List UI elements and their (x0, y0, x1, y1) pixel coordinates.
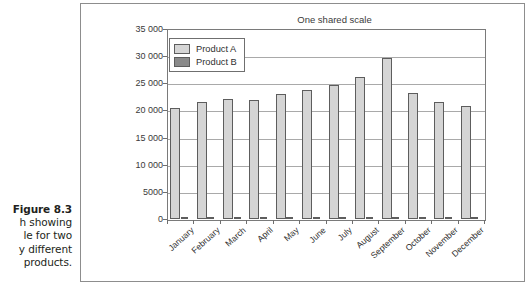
bar-group (405, 29, 431, 219)
x-tick-label-july: July (336, 225, 354, 243)
bar-product-a (302, 90, 312, 219)
bar-group (273, 29, 299, 219)
x-tick-label-june: June (307, 225, 328, 245)
bar-product-a (382, 58, 392, 219)
bar-product-b (234, 217, 241, 219)
legend-swatch-icon (174, 57, 190, 67)
y-tick-label: 0 (83, 214, 163, 224)
bar-product-b (392, 217, 399, 219)
bar-product-a (408, 93, 418, 219)
bar-product-b (419, 217, 426, 219)
y-tick-label: 5000 (83, 187, 163, 197)
bar-product-a (223, 99, 233, 219)
x-tick-label-march: March (224, 225, 248, 248)
bar-group (326, 29, 352, 219)
bar-product-a (197, 102, 207, 219)
caption-line-1: h showing (0, 216, 72, 229)
caption-line-4: products. (0, 256, 72, 269)
x-tick-label-may: May (282, 225, 301, 243)
bar-group (431, 29, 457, 219)
y-tick-label: 35 000 (83, 24, 163, 34)
caption-line-0: Figure 8.3 (0, 203, 72, 216)
bar-product-a (329, 85, 339, 219)
x-axis-tick-labels: JanuaryFebruaryMarchAprilMayJuneJulyAugu… (167, 223, 497, 281)
bar-product-b (445, 217, 452, 219)
bar-product-b (366, 217, 373, 219)
legend-item-product-b: Product B (174, 55, 237, 68)
bar-product-a (355, 77, 365, 219)
bar-product-a (170, 108, 180, 219)
bar-product-a (461, 106, 471, 219)
bar-product-b (339, 217, 346, 219)
bar-group (458, 29, 484, 219)
bar-group (246, 29, 272, 219)
bar-product-b (181, 217, 188, 219)
bar-product-a (276, 94, 286, 219)
y-tick-label: 10 000 (83, 160, 163, 170)
y-tick-label: 15 000 (83, 133, 163, 143)
bar-product-b (207, 217, 214, 219)
bar-group (378, 29, 404, 219)
legend-label: Product B (196, 57, 237, 67)
y-axis-tick-labels: 35 00030 00025 00020 00015 00010 0005000… (81, 29, 163, 219)
y-tick-label: 25 000 (83, 78, 163, 88)
bar-product-b (313, 217, 320, 219)
bar-product-b (286, 217, 293, 219)
bar-product-a (434, 102, 444, 219)
bar-product-a (249, 100, 259, 219)
caption-line-2: le for two (0, 229, 72, 242)
bar-product-b (260, 217, 267, 219)
figure-caption: Figure 8.3h showingle for twoy different… (0, 203, 72, 269)
figure-frame: One shared scale 35 00030 00025 00020 00… (80, 3, 525, 282)
bar-group (299, 29, 325, 219)
legend-swatch-icon (174, 44, 190, 54)
y-tick-label: 20 000 (83, 105, 163, 115)
y-tick-label: 30 000 (83, 51, 163, 61)
bar-group (352, 29, 378, 219)
x-tick-label-april: April (255, 225, 274, 244)
chart-legend: Product AProduct B (169, 38, 245, 72)
legend-item-product-a: Product A (174, 42, 237, 55)
legend-label: Product A (196, 44, 236, 54)
bar-chart: One shared scale 35 00030 00025 00020 00… (81, 4, 526, 283)
caption-line-3: y different (0, 243, 72, 256)
bar-product-b (471, 217, 478, 219)
